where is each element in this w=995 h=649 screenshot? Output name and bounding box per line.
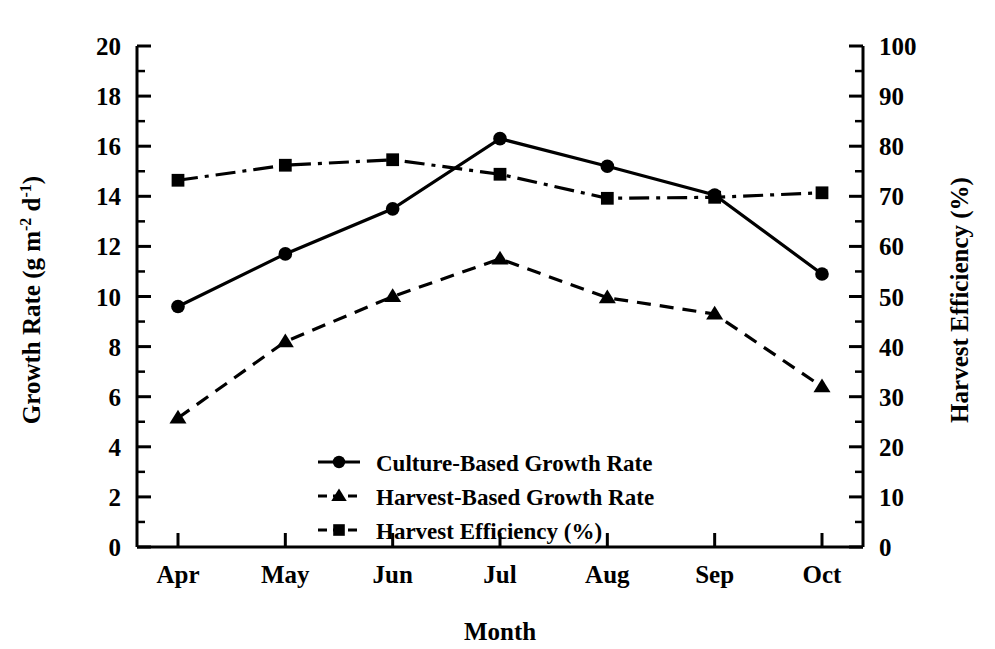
x-tick-label: Jul <box>483 561 516 588</box>
right-tick-label: 100 <box>879 33 917 60</box>
x-tick-label: Jun <box>373 561 413 588</box>
right-tick-label: 10 <box>879 484 904 511</box>
series-3 <box>172 153 829 204</box>
chart-figure: 02468101214161820 0102030405060708090100… <box>0 0 995 649</box>
data-point-marker-square <box>601 192 614 205</box>
right-tick-label: 30 <box>879 384 904 411</box>
left-tick-label: 10 <box>96 284 121 311</box>
x-axis-tick-labels: AprMayJunJulAugSepOct <box>156 561 842 588</box>
legend-label: Harvest Efficiency (%) <box>376 519 602 544</box>
left-axis-title: Growth Rate (g m-2 d-1) <box>17 176 46 424</box>
right-tick-label: 20 <box>879 434 904 461</box>
right-axis-ticks <box>849 46 863 547</box>
x-axis-title: Month <box>464 618 536 645</box>
left-tick-label: 6 <box>109 384 122 411</box>
left-tick-label: 16 <box>96 133 121 160</box>
left-tick-label: 18 <box>96 83 121 110</box>
left-tick-label: 20 <box>96 33 121 60</box>
series-1 <box>171 132 829 313</box>
right-tick-label: 0 <box>879 534 892 561</box>
left-axis-title-main: Growth Rate (g m <box>18 231 46 424</box>
data-point-marker-circle <box>333 456 345 468</box>
data-point-marker-square <box>708 191 721 204</box>
data-point-marker-square <box>172 174 185 187</box>
legend-item-2: Harvest-Based Growth Rate <box>318 485 654 510</box>
legend-item-1: Culture-Based Growth Rate <box>318 451 652 476</box>
data-point-marker-circle <box>815 267 829 281</box>
left-axis-ticks <box>137 46 151 547</box>
left-axis-title-mid: d <box>18 197 45 217</box>
right-tick-label: 50 <box>879 284 904 311</box>
data-point-marker-square <box>333 524 345 536</box>
legend-item-3: Harvest Efficiency (%) <box>318 519 602 544</box>
left-tick-label: 4 <box>109 434 122 461</box>
right-axis-tick-labels: 0102030405060708090100 <box>879 33 917 561</box>
x-tick-label: Oct <box>803 561 843 588</box>
right-axis-title: Harvest Efficiency (%) <box>946 177 974 423</box>
right-tick-label: 60 <box>879 233 904 260</box>
data-point-marker-circle <box>601 159 615 173</box>
right-tick-label: 90 <box>879 83 904 110</box>
left-axis-title-sup1: -2 <box>17 218 34 231</box>
data-point-marker-circle <box>493 132 507 146</box>
data-series-layer <box>169 132 830 424</box>
x-tick-label: Apr <box>156 561 199 588</box>
data-point-marker-square <box>816 186 829 199</box>
series-2 <box>169 251 830 424</box>
data-point-marker-triangle <box>813 378 830 392</box>
left-axis-title-tail: ) <box>18 176 46 184</box>
left-tick-label: 0 <box>109 534 122 561</box>
data-point-marker-square <box>279 159 292 172</box>
data-point-marker-triangle <box>277 333 294 347</box>
x-tick-label: Sep <box>695 561 734 588</box>
left-tick-label: 12 <box>96 233 121 260</box>
data-point-marker-square <box>386 153 399 166</box>
data-point-marker-circle <box>171 300 185 314</box>
left-tick-label: 8 <box>109 334 122 361</box>
left-axis-tick-labels: 02468101214161820 <box>96 33 122 561</box>
series-line <box>178 139 822 307</box>
data-point-marker-circle <box>386 202 400 216</box>
svg-text:Growth Rate (g m-2 d-1): Growth Rate (g m-2 d-1) <box>17 176 46 424</box>
right-tick-label: 70 <box>879 183 904 210</box>
x-tick-label: May <box>261 561 310 588</box>
right-tick-label: 40 <box>879 334 904 361</box>
legend-label: Harvest-Based Growth Rate <box>376 485 654 510</box>
left-tick-label: 14 <box>96 183 122 210</box>
legend-label: Culture-Based Growth Rate <box>376 451 652 476</box>
chart-legend: Culture-Based Growth RateHarvest-Based G… <box>318 451 654 544</box>
data-point-marker-square <box>494 168 507 181</box>
series-line <box>178 259 822 418</box>
line-chart-svg: 02468101214161820 0102030405060708090100… <box>0 0 995 649</box>
right-tick-label: 80 <box>879 133 904 160</box>
data-point-marker-circle <box>279 247 293 261</box>
left-axis-title-sup2: -1 <box>17 184 34 197</box>
x-tick-label: Aug <box>585 561 630 588</box>
data-point-marker-triangle <box>491 251 508 265</box>
left-tick-label: 2 <box>109 484 122 511</box>
